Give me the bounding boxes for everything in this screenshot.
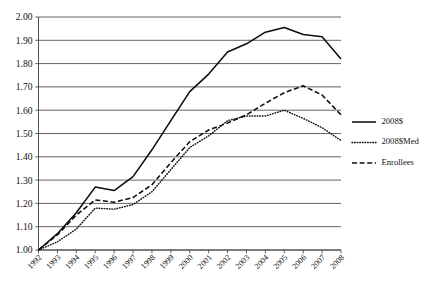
y-axis-tick-label: 1.10 (16, 221, 33, 232)
x-axis-tick-label: 1998 (139, 253, 157, 271)
y-axis-tick-label: 1.80 (16, 58, 33, 69)
legend-label-2008-med: 2008$Med (382, 136, 420, 146)
series-line-2008 (39, 27, 342, 250)
gridlines (39, 17, 342, 250)
x-axis-tick-label: 2006 (290, 253, 308, 271)
x-axis-tick-label: 2007 (309, 253, 327, 271)
y-axis-tick-label: 1.20 (16, 198, 33, 209)
x-axis-tick-label: 1993 (45, 253, 63, 271)
x-axis-tick-label: 1997 (120, 253, 138, 271)
y-axis-tick-label: 1.40 (16, 151, 33, 162)
legend-label-2008: 2008$ (382, 116, 404, 126)
x-axis-tick-label: 2005 (271, 253, 289, 271)
x-axis-tick-label: 1999 (158, 253, 176, 271)
x-axis-tick-label: 2003 (234, 253, 252, 271)
y-axis-tick-label: 1.00 (16, 244, 33, 255)
data-series (39, 27, 342, 250)
y-axis-tick-label: 1.50 (16, 128, 33, 139)
x-axis-tick-label: 2008 (328, 253, 346, 271)
x-axis-tick-label: 2004 (253, 253, 271, 271)
x-axis-tick-label: 2001 (196, 253, 214, 271)
x-axis-tick-label: 1994 (64, 253, 82, 271)
x-axis-tick-label: 1996 (101, 253, 119, 271)
y-axis-tick-label: 2.00 (16, 11, 33, 22)
y-axis-tick-label: 1.30 (16, 175, 33, 186)
y-axis-tick-label: 1.70 (16, 81, 33, 92)
legend-label-enrollees: Enrollees (382, 157, 415, 167)
y-axis-tick-labels: 1.001.101.201.301.401.501.601.701.801.90… (16, 11, 39, 255)
chart-legend: 2008$2008$MedEnrollees (352, 116, 419, 167)
chart-container: 1.001.101.201.301.401.501.601.701.801.90… (0, 0, 433, 289)
x-axis-tick-label: 2002 (215, 253, 233, 271)
line-chart: 1.001.101.201.301.401.501.601.701.801.90… (0, 0, 433, 289)
x-axis-tick-label: 2000 (177, 253, 195, 271)
x-axis-tick-labels: 1992199319941995199619971998199920002001… (26, 250, 346, 271)
x-axis-tick-label: 1992 (26, 253, 44, 271)
x-axis-tick-label: 1995 (82, 253, 100, 271)
y-axis-tick-label: 1.60 (16, 105, 33, 116)
y-axis-tick-label: 1.90 (16, 35, 33, 46)
